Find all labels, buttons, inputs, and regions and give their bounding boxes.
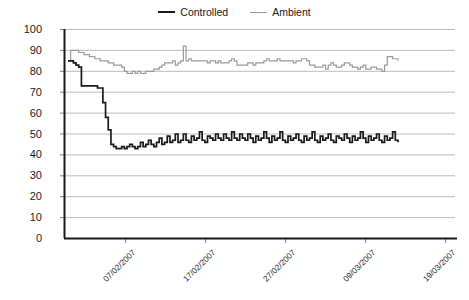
chart-container: Controlled Ambient 100908070605040302010… — [0, 0, 469, 300]
y-axis-tick-label: 100 — [24, 24, 42, 35]
y-axis-tick-label: 90 — [30, 45, 42, 56]
y-axis-tick-label: 0 — [36, 233, 42, 244]
y-axis-tick-label: 10 — [30, 212, 42, 223]
y-axis-tick-label: 60 — [30, 108, 42, 119]
y-axis-tick-label: 80 — [30, 66, 42, 77]
y-axis-tick-label: 70 — [30, 87, 42, 98]
series-line-controlled — [68, 61, 398, 149]
y-axis-tick-label: 30 — [30, 170, 42, 181]
y-axis-tick-label: 50 — [30, 129, 42, 140]
gridlines — [60, 30, 455, 218]
y-axis-tick-label: 40 — [30, 149, 42, 160]
plot-area — [0, 0, 469, 300]
y-axis-tick-label: 20 — [30, 191, 42, 202]
